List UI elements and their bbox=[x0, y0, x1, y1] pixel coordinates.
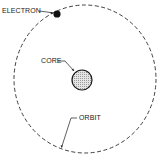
core-label: CORE bbox=[41, 57, 62, 64]
core-nucleus bbox=[72, 70, 92, 90]
electron-callout: ELECTRON bbox=[2, 7, 53, 14]
core-callout: CORE bbox=[41, 57, 74, 71]
orbit-callout: ORBIT bbox=[61, 114, 102, 148]
orbit-label: ORBIT bbox=[79, 114, 102, 121]
atom-diagram: ELECTRON CORE ORBIT bbox=[0, 0, 166, 162]
electron-dot bbox=[53, 10, 60, 17]
electron-label: ELECTRON bbox=[2, 7, 41, 14]
